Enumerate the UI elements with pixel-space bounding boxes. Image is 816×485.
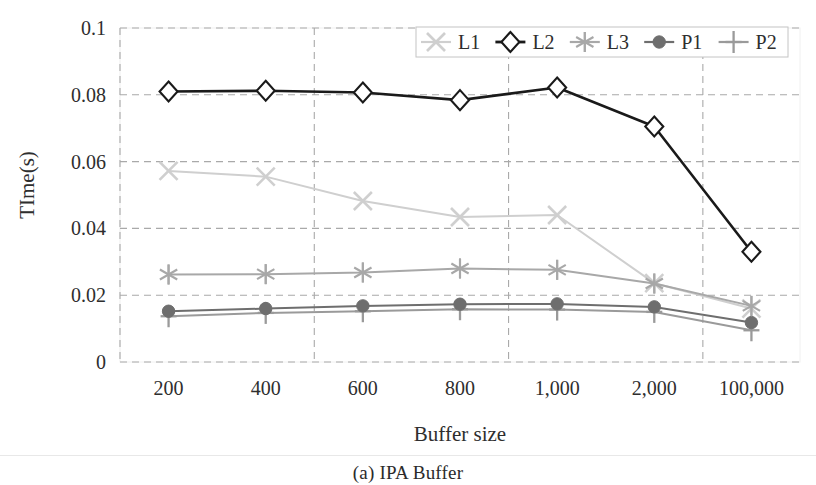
legend-label: P2 (756, 31, 777, 53)
legend-label: L1 (458, 31, 480, 53)
y-tick-label: 0.04 (71, 217, 106, 239)
data-point-marker (357, 300, 369, 312)
x-tick-label: 100,000 (719, 377, 784, 399)
legend: L1L2L3P1P2 (416, 27, 788, 57)
y-tick-label: 0 (96, 351, 106, 373)
y-tick-label: 0.06 (71, 151, 106, 173)
caption-divider (0, 455, 816, 456)
figure-caption: (a) IPA Buffer (0, 462, 816, 484)
x-axis-title: Buffer size (414, 422, 506, 446)
x-tick-label: 800 (445, 377, 475, 399)
legend-label: P1 (681, 31, 702, 53)
x-tick-label: 1,000 (535, 377, 580, 399)
y-tick-label: 0.1 (81, 17, 106, 39)
x-tick-label: 600 (348, 377, 378, 399)
data-point-marker (745, 316, 757, 328)
data-point-marker (551, 298, 563, 310)
line-chart: 00.020.040.060.080.12004006008001,0002,0… (0, 0, 816, 455)
data-point-marker (260, 302, 272, 314)
y-axis-title: TIme(s) (15, 151, 39, 219)
legend-label: L3 (607, 31, 629, 53)
data-point-marker (653, 36, 665, 48)
x-tick-label: 200 (154, 377, 184, 399)
x-tick-label: 400 (251, 377, 281, 399)
y-tick-label: 0.08 (71, 84, 106, 106)
figure-container: 00.020.040.060.080.12004006008001,0002,0… (0, 0, 816, 485)
data-point-marker (162, 305, 174, 317)
y-tick-label: 0.02 (71, 284, 106, 306)
x-tick-label: 2,000 (632, 377, 677, 399)
data-point-marker (648, 301, 660, 313)
data-point-marker (454, 298, 466, 310)
legend-label: L2 (532, 31, 554, 53)
